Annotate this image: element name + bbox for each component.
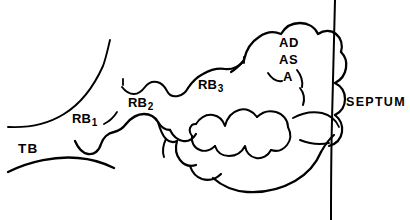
rb1-lower-wall: [75, 124, 126, 154]
label-rb1-base: RB: [72, 111, 91, 126]
alveolar-sac-pointer-arc: [297, 70, 302, 87]
alveolar-duct-lumen-bottom-left: [192, 136, 215, 151]
label-terminal-bronchiole: TB: [18, 142, 38, 156]
acinus-left-shoulder: [231, 60, 244, 72]
alveolar-duct-pointer-arc: [268, 73, 282, 81]
alveolar-sac-inner-partition-lower: [300, 140, 329, 144]
label-alveolar-duct: AD: [279, 36, 299, 49]
acinus-lower-left-scallop-b: [190, 166, 221, 180]
alveolus-pointer-arc: [300, 88, 304, 105]
label-rb3-base: RB: [198, 77, 217, 92]
label-septum: SEPTUM: [346, 96, 406, 109]
label-alveolus: A: [283, 70, 293, 83]
acinus-upper-right-outline: [335, 52, 346, 83]
acinus-line-drawing: [0, 0, 410, 220]
label-respiratory-bronchiole-2: RB2: [128, 96, 153, 109]
label-rb2-subscript: 2: [148, 101, 154, 112]
label-rb1-subscript: 1: [92, 117, 98, 128]
tb-lower-wall: [8, 158, 114, 172]
label-alveolar-sac: AS: [279, 53, 298, 66]
rb1-upper-wall: [104, 112, 117, 124]
label-rb2-base: RB: [128, 95, 147, 110]
alveolar-sac-right-lobe-upper: [335, 83, 345, 115]
alveolar-duct-lumen-top-right: [257, 111, 288, 127]
acinus-bottom-outline: [213, 152, 321, 192]
label-respiratory-bronchiole-1: RB1: [72, 112, 97, 125]
alveolar-duct-lumen-right: [271, 127, 290, 151]
alveolar-duct-lumen-bottom: [215, 146, 271, 158]
label-respiratory-bronchiole-3: RB3: [198, 78, 223, 91]
rb2-lower-wall: [126, 114, 170, 130]
label-rb3-subscript: 3: [218, 83, 224, 94]
alveolar-duct-lumen-top: [196, 109, 257, 126]
rb2-lower-pocket-b: [163, 139, 166, 157]
acinus-diagram: TB RB1 RB2 RB3 AD AS A SEPTUM: [0, 0, 410, 220]
